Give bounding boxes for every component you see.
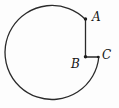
point-label-c: C: [102, 49, 111, 61]
geometry-figure: A B C: [0, 0, 119, 108]
point-c-dot: [97, 56, 100, 59]
point-b-dot: [84, 55, 87, 58]
point-a-dot: [84, 17, 87, 20]
point-label-a: A: [92, 11, 101, 23]
point-label-b: B: [71, 58, 80, 70]
notch-segments: [86, 20, 99, 58]
